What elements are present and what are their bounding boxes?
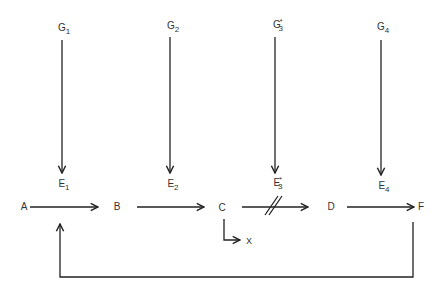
- enzyme-label-e3: E*3: [274, 176, 283, 191]
- gene-label-g2: G2: [167, 21, 179, 34]
- metabolite-x: X: [246, 237, 252, 246]
- gene-label-g3: G*3: [273, 18, 283, 33]
- enzyme-label-e2: E2: [167, 179, 178, 192]
- gene-label-g1: G1: [58, 23, 70, 36]
- metabolite-c: C: [218, 203, 225, 213]
- arrow-c-x: [224, 219, 240, 240]
- pathway-diagram: [0, 0, 443, 295]
- gene-label-g4: G4: [377, 22, 389, 35]
- enzyme-label-e1: E1: [58, 179, 69, 192]
- metabolite-d: D: [327, 202, 334, 212]
- metabolite-a: A: [21, 202, 28, 212]
- metabolite-b: B: [114, 202, 121, 212]
- metabolite-f: F: [418, 202, 424, 212]
- feedback-arrow-f: [60, 222, 413, 277]
- enzyme-label-e4: E4: [378, 181, 389, 194]
